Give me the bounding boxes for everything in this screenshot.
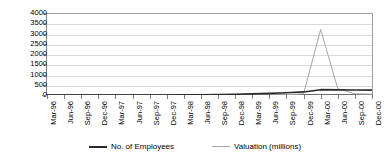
x-axis-tick-mark (338, 95, 339, 99)
y-axis-tick-label: 500 (0, 81, 47, 89)
x-axis-tick-mark (184, 95, 185, 99)
x-axis-tick-label: Mar-00 (324, 101, 332, 135)
legend-swatch-valuation-icon (212, 146, 230, 147)
series-layer (46, 13, 373, 95)
legend-label-valuation: Valuation (millions) (234, 142, 301, 151)
y-axis-tick-label: 0 (0, 91, 47, 99)
legend-item-employees: No. of Employees (89, 142, 174, 151)
x-axis-tick-mark (321, 95, 322, 99)
x-axis-tick-label: Sep-98 (221, 101, 229, 135)
x-axis-tick-label: Mar-99 (255, 101, 263, 135)
x-axis-tick-label: Mar-97 (118, 101, 126, 135)
y-axis-tick-mark (42, 95, 46, 96)
x-axis-tick-label: Dec-96 (101, 101, 109, 135)
x-axis-tick-mark (115, 95, 116, 99)
x-axis-tick-mark (355, 95, 356, 99)
x-axis-tick-label: Jun-00 (341, 101, 349, 135)
y-axis-tick-label: 2000 (0, 50, 47, 58)
x-axis-tick-label: Sep-97 (153, 101, 161, 135)
x-axis-tick-mark (372, 95, 373, 99)
x-axis-tick-label: Jun-99 (272, 101, 280, 135)
x-axis-tick-label: Sep-96 (84, 101, 92, 135)
y-axis-tick-label: 3500 (0, 19, 47, 27)
x-axis-tick-mark (64, 95, 65, 99)
x-axis-tick-mark (252, 95, 253, 99)
x-axis-tick-label: Sep-00 (358, 101, 366, 135)
x-axis-tick-mark (81, 95, 82, 99)
legend-swatch-employees-icon (89, 146, 107, 148)
series-line-employees (47, 90, 372, 95)
chart-legend: No. of Employees Valuation (millions) (0, 142, 390, 151)
x-axis-tick-mark (269, 95, 270, 99)
x-axis-tick-label: Jun-98 (204, 101, 212, 135)
x-axis-tick-label: Jun-96 (67, 101, 75, 135)
x-axis-tick-mark (201, 95, 202, 99)
x-axis-tick-mark (304, 95, 305, 99)
x-axis-tick-label: Dec-00 (375, 101, 383, 135)
x-axis-tick-label: Mar-98 (187, 101, 195, 135)
x-axis-tick-mark (218, 95, 219, 99)
y-axis-tick-label: 2500 (0, 40, 47, 48)
x-axis-tick-label: Dec-97 (170, 101, 178, 135)
y-axis-tick-label: 1500 (0, 60, 47, 68)
x-axis-tick-label: Mar-96 (50, 101, 58, 135)
x-axis-tick-mark (150, 95, 151, 99)
x-axis-tick-mark (133, 95, 134, 99)
x-axis-tick-mark (235, 95, 236, 99)
x-axis-tick-label: Dec-99 (307, 101, 315, 135)
y-axis-tick-label: 1000 (0, 71, 47, 79)
y-axis-tick-label: 4000 (0, 9, 47, 17)
x-axis-tick-mark (47, 95, 48, 99)
y-axis-tick-label: 3000 (0, 30, 47, 38)
x-axis-tick-mark (167, 95, 168, 99)
legend-item-valuation: Valuation (millions) (212, 142, 301, 151)
series-line-valuation (47, 29, 372, 95)
x-axis-tick-label: Sep-99 (289, 101, 297, 135)
legend-label-employees: No. of Employees (111, 142, 174, 151)
x-axis-tick-label: Jun-97 (136, 101, 144, 135)
line-chart: 05001000150020002500300035004000 Mar-96J… (0, 0, 390, 162)
x-axis-tick-mark (98, 95, 99, 99)
x-axis-tick-mark (286, 95, 287, 99)
x-axis-tick-label: Dec-98 (238, 101, 246, 135)
